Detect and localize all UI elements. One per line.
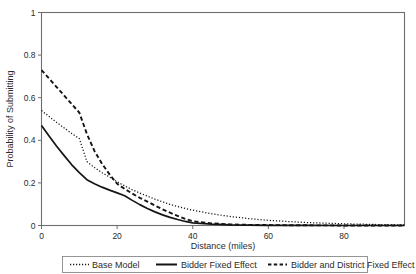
legend-label-bidder-fixed-effect: Bidder Fixed Effect xyxy=(181,260,257,270)
series-line-bidder-and-district-fixed-effect xyxy=(42,70,405,225)
data-series-group xyxy=(42,70,405,225)
legend-label-base-model: Base Model xyxy=(92,260,140,270)
y-axis-title: Probability of Submitting xyxy=(5,70,15,167)
x-tick-label: 40 xyxy=(188,231,198,241)
x-axis-ticks: 020406080 xyxy=(39,226,349,241)
y-tick-label: 0 xyxy=(31,221,36,231)
x-tick-label: 60 xyxy=(264,231,274,241)
x-tick-label: 0 xyxy=(39,231,44,241)
legend-label-bidder-and-district-fixed-effect: Bidder and District Fixed Effect xyxy=(291,260,415,270)
chart-figure: 00.20.40.60.81 020406080 Probability of … xyxy=(0,0,416,274)
y-axis-ticks: 00.20.40.60.81 xyxy=(24,8,42,231)
y-tick-label: 0.8 xyxy=(24,50,36,60)
series-line-base-model xyxy=(42,110,405,224)
probability-of-submitting-line-chart: 00.20.40.60.81 020406080 Probability of … xyxy=(0,0,416,274)
series-line-bidder-fixed-effect xyxy=(42,125,405,225)
y-tick-label: 0.6 xyxy=(24,93,36,103)
chart-legend: Base Model Bidder Fixed Effect Bidder an… xyxy=(63,257,415,273)
x-axis-title: Distance (miles) xyxy=(191,241,256,251)
y-tick-label: 1 xyxy=(31,8,36,18)
plot-frame xyxy=(42,13,405,226)
y-tick-label: 0.2 xyxy=(24,178,36,188)
x-tick-label: 80 xyxy=(339,231,349,241)
x-tick-label: 20 xyxy=(112,231,122,241)
y-tick-label: 0.4 xyxy=(24,135,36,145)
